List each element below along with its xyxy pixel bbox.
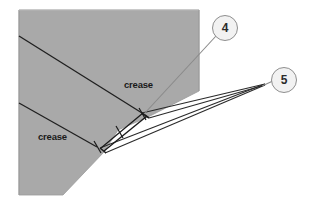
diagram-canvas (0, 0, 311, 203)
crease-label-upper: crease (124, 79, 153, 90)
callout-marker-4: 4 (212, 15, 238, 41)
paper-shape (19, 10, 199, 195)
origami-folding-diagram: crease crease 4 5 (0, 0, 311, 203)
callout-marker-5: 5 (271, 67, 297, 93)
crease-label-lower: crease (38, 131, 67, 142)
